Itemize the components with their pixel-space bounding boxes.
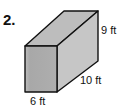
- length-label: 10 ft: [80, 75, 101, 86]
- rectangular-prism-figure: [0, 0, 126, 111]
- front-face: [25, 46, 57, 92]
- width-label: 6 ft: [30, 96, 45, 107]
- height-label: 9 ft: [101, 25, 116, 36]
